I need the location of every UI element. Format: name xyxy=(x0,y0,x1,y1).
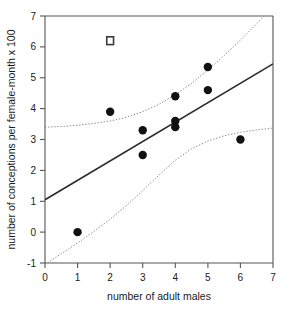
x-tick-label: 7 xyxy=(270,272,276,283)
y-tick-label: 6 xyxy=(30,41,36,52)
x-tick-label: 4 xyxy=(173,272,179,283)
data-point xyxy=(171,92,179,100)
upper-confidence-band xyxy=(45,7,273,127)
y-tick-label: 3 xyxy=(30,134,36,145)
data-point-open-square xyxy=(107,37,114,45)
scatter-plot-figure: 7 6 5 4 3 2 1 0 -1 0 1 2 3 4 5 6 7 numbe… xyxy=(0,0,295,311)
x-tick-labels: 0 1 2 3 4 5 6 7 xyxy=(42,272,276,283)
data-point xyxy=(73,228,81,236)
lower-confidence-band xyxy=(45,128,273,264)
y-axis-title: number of conceptions per female-month x… xyxy=(5,29,17,249)
x-tick-label: 6 xyxy=(238,272,244,283)
x-tick-label: 2 xyxy=(107,272,113,283)
y-tick-label: 2 xyxy=(30,165,36,176)
x-tick-label: 3 xyxy=(140,272,146,283)
y-tick-labels: 7 6 5 4 3 2 1 0 -1 xyxy=(27,11,36,269)
data-point xyxy=(106,108,114,116)
data-point xyxy=(139,126,147,134)
y-axis-ticks xyxy=(40,16,45,263)
y-tick-label: 4 xyxy=(30,103,36,114)
x-tick-label: 1 xyxy=(75,272,81,283)
y-tick-label: -1 xyxy=(27,258,36,269)
regression-line xyxy=(45,64,273,200)
data-point xyxy=(204,63,212,71)
plot-canvas: 7 6 5 4 3 2 1 0 -1 0 1 2 3 4 5 6 7 numbe… xyxy=(0,0,295,311)
data-point xyxy=(236,135,244,143)
x-tick-label: 5 xyxy=(205,272,211,283)
y-tick-label: 0 xyxy=(30,227,36,238)
data-point xyxy=(171,123,179,131)
plot-content xyxy=(45,7,273,265)
y-tick-label: 5 xyxy=(30,72,36,83)
x-tick-label: 0 xyxy=(42,272,48,283)
data-point xyxy=(204,86,212,94)
y-tick-label: 1 xyxy=(30,196,36,207)
data-markers xyxy=(73,37,244,237)
y-tick-label: 7 xyxy=(30,11,36,22)
data-point xyxy=(139,151,147,159)
x-axis-title: number of adult males xyxy=(107,290,211,302)
x-axis-ticks xyxy=(45,263,273,268)
